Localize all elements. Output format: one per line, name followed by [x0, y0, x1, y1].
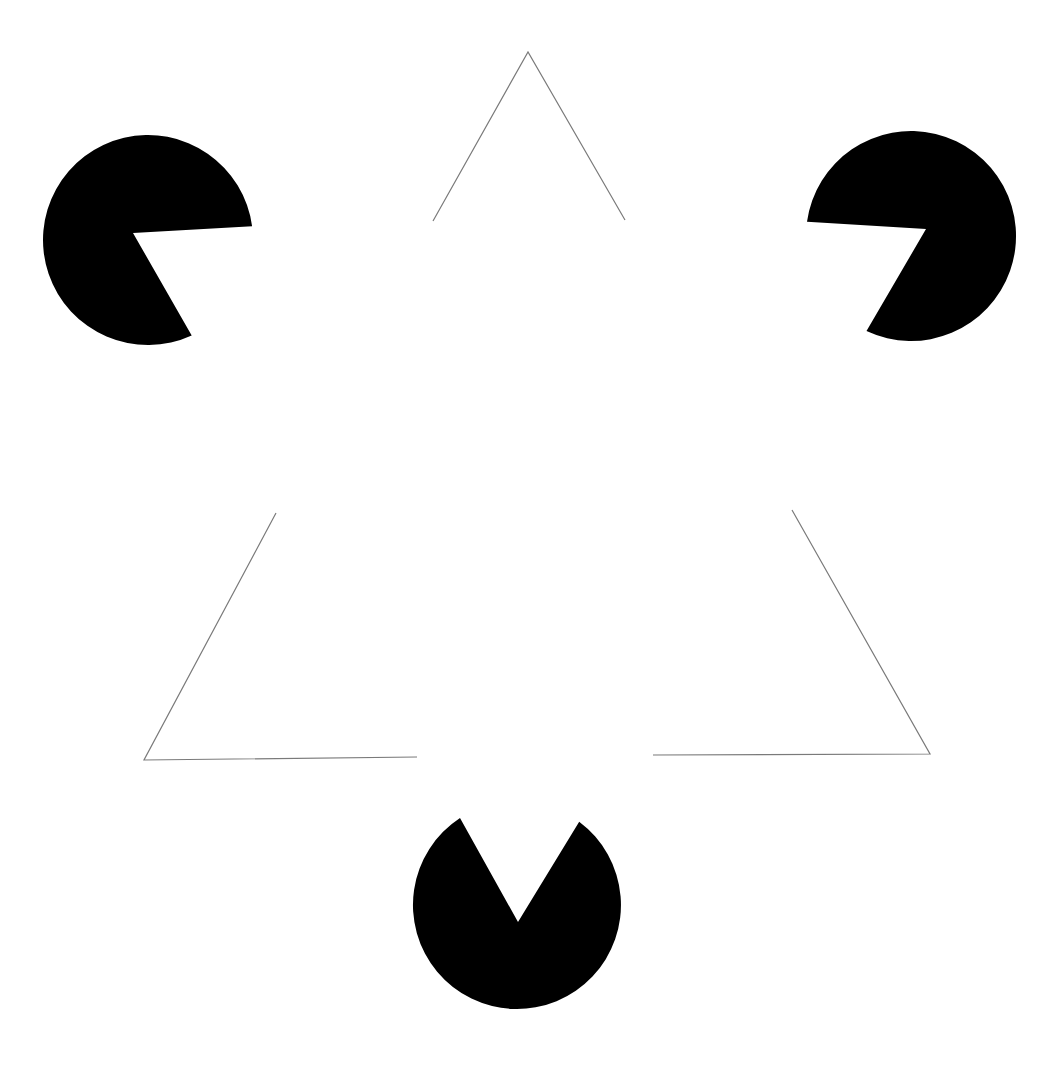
- kanizsa-figure: [0, 0, 1055, 1073]
